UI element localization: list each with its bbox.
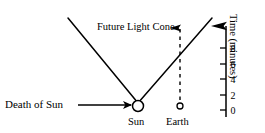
sun-marker bbox=[133, 101, 144, 112]
future-light-cone-label: Future Light Cone bbox=[97, 22, 175, 33]
death-of-sun-label: Death of Sun bbox=[5, 99, 63, 110]
diagram-canvas bbox=[0, 0, 265, 133]
time-tick-label-2: 2 bbox=[227, 90, 239, 101]
time-axis-label: Time (minutes) bbox=[228, 14, 239, 79]
earth-label: Earth bbox=[166, 117, 189, 128]
time-tick-label-0: 0 bbox=[227, 105, 239, 116]
light-cone-diagram: 0 2 4 6 8 Future Light Cone Death of Sun… bbox=[0, 0, 265, 133]
time-axis-ticks bbox=[220, 48, 226, 110]
earth-marker bbox=[177, 103, 183, 109]
sun-label: Sun bbox=[128, 117, 144, 128]
